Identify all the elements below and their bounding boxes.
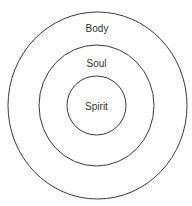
label-spirit: Spirit — [85, 101, 108, 112]
label-soul: Soul — [86, 58, 106, 69]
label-body: Body — [86, 23, 109, 34]
body-soul-spirit-diagram: Body Soul Spirit — [0, 0, 192, 206]
